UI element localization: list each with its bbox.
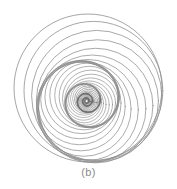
- spiral-of-circles-figure: [0, 0, 177, 175]
- figure-panel: (b): [0, 0, 177, 189]
- figure-caption: (b): [0, 166, 177, 178]
